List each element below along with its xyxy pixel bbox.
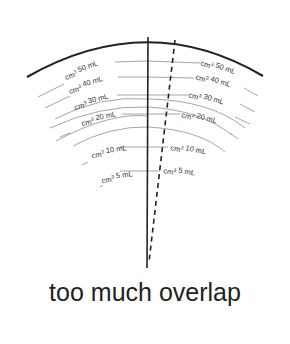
- svg-text:cm320 mL: cm320 mL: [80, 109, 117, 128]
- left-label-40: 40 mL: [81, 74, 104, 89]
- left-label-5: 5 mL: [115, 169, 133, 180]
- right-label-40: 40 mL: [209, 74, 232, 89]
- left-label-30: 30 mL: [87, 92, 109, 106]
- svg-text:cm330 mL: cm330 mL: [187, 87, 225, 109]
- right-labels: cm350 mL cm340 mL cm330 mL cm320 mL cm31…: [163, 56, 237, 181]
- svg-text:cm310 mL: cm310 mL: [91, 143, 128, 160]
- svg-text:cm330 mL: cm330 mL: [73, 92, 110, 112]
- center-axis-line: [147, 37, 148, 268]
- right-label-5: 5 mL: [178, 166, 196, 178]
- svg-text:cm35 mL: cm35 mL: [101, 169, 134, 185]
- right-label-20: 20 mL: [196, 111, 218, 125]
- left-label-10: 10 mL: [105, 143, 127, 155]
- svg-text:cm35 mL: cm35 mL: [163, 163, 196, 180]
- right-label-50: 50 mL: [214, 61, 237, 77]
- caption: too much overlap: [0, 278, 290, 307]
- right-label-10: 10 mL: [185, 143, 207, 156]
- svg-text:cm320 mL: cm320 mL: [180, 107, 218, 128]
- right-label-30: 30 mL: [202, 92, 225, 107]
- svg-text:cm310 mL: cm310 mL: [170, 140, 207, 159]
- left-label-50: 50 mL: [76, 58, 99, 74]
